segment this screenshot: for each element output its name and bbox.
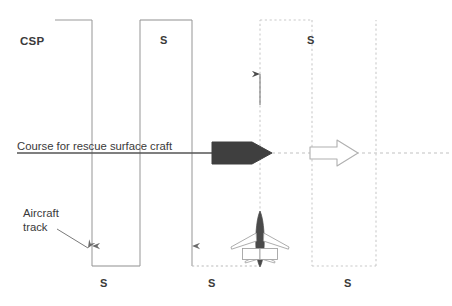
right-arrow-outline-icon xyxy=(310,140,358,166)
ship-symbol xyxy=(212,142,272,164)
aircraft-track-dotted xyxy=(260,20,376,266)
label-csp: CSP xyxy=(20,34,44,48)
label-leg-spacing-top-2: S xyxy=(307,34,315,48)
label-leg-spacing-bottom-1: S xyxy=(100,277,108,291)
label-rescue-craft-course: Course for rescue surface craft xyxy=(17,139,172,153)
leader-arrow-icon xyxy=(57,229,88,248)
search-pattern-diagram: CSP S S S S S Course for rescue surface … xyxy=(0,0,452,306)
label-aircraft-track: Aircrafttrack xyxy=(23,206,59,234)
label-aircraft-track-line2: track xyxy=(23,221,47,233)
label-leg-spacing-top-1: S xyxy=(160,34,168,48)
aircraft-symbol xyxy=(231,211,289,267)
label-leg-spacing-bottom-3: S xyxy=(344,277,352,291)
label-leg-spacing-bottom-2: S xyxy=(208,277,216,291)
label-aircraft-track-line1: Aircraft xyxy=(23,207,59,219)
